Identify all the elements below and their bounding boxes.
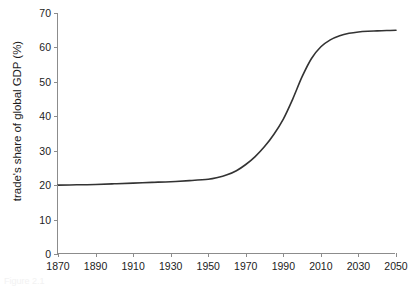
x-tick-mark: [171, 253, 172, 257]
x-tick-label: 1890: [84, 260, 107, 272]
x-tick-mark: [208, 253, 209, 257]
figure-caption: Figure 2.1: [4, 276, 45, 286]
y-tick-label: 0: [45, 248, 51, 260]
y-tick-label: 60: [39, 41, 51, 53]
y-tick-mark: [54, 82, 58, 83]
x-tick-mark: [396, 253, 397, 257]
y-tick-label: 10: [39, 214, 51, 226]
x-tick-mark: [358, 253, 359, 257]
x-tick-mark: [246, 253, 247, 257]
x-tick-mark: [96, 253, 97, 257]
y-tick-mark: [54, 220, 58, 221]
x-tick-label: 1990: [272, 260, 295, 272]
x-tick-mark: [133, 253, 134, 257]
x-tick-label: 2010: [309, 260, 332, 272]
y-tick-label: 70: [39, 7, 51, 19]
trade-share-line-series: [58, 13, 396, 254]
x-tick-mark: [321, 253, 322, 257]
x-tick-label: 1910: [121, 260, 144, 272]
y-axis-title: trade's share of global GDP (%): [6, 0, 28, 248]
y-tick-mark: [54, 151, 58, 152]
y-tick-label: 40: [39, 110, 51, 122]
y-tick-mark: [54, 47, 58, 48]
x-tick-label: 1950: [197, 260, 220, 272]
x-tick-label: 2050: [384, 260, 407, 272]
y-tick-mark: [54, 116, 58, 117]
plot-area: 010203040506070 187018901910193019501970…: [57, 13, 395, 254]
x-tick-label: 1870: [46, 260, 69, 272]
y-tick-mark: [54, 185, 58, 186]
series-path: [58, 30, 396, 185]
figure-container: trade's share of global GDP (%) 01020304…: [0, 0, 413, 288]
x-tick-mark: [58, 253, 59, 257]
x-tick-label: 1930: [159, 260, 182, 272]
y-tick-label: 50: [39, 76, 51, 88]
x-tick-label: 2030: [347, 260, 370, 272]
x-tick-label: 1970: [234, 260, 257, 272]
y-tick-mark: [54, 13, 58, 14]
x-tick-mark: [283, 253, 284, 257]
y-tick-label: 30: [39, 145, 51, 157]
y-tick-label: 20: [39, 179, 51, 191]
